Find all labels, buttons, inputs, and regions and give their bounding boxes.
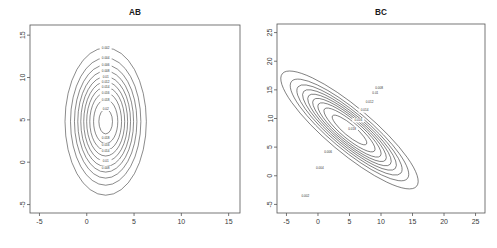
contour-label: 0.018 [102,136,110,140]
y-tick-label: 10 [20,74,27,82]
x-tick-label: -5 [283,218,289,225]
contour-plot-bc: BC-50510152025-505101520250.0020.0040.00… [249,0,497,248]
x-axis: -5051015 [36,213,232,225]
contour-label: 0.004 [316,166,324,170]
figure-root: AB-5051015-50510150.0020.0040.0060.0080.… [0,0,497,248]
y-tick-label: 15 [20,31,27,39]
contour-label: 0.014 [102,85,110,89]
x-tick-label: 15 [225,218,233,225]
contour-label: 0.01 [103,75,109,79]
x-tick-label: 5 [348,218,352,225]
contour-label: 0.02 [103,107,109,111]
plot-frame [30,25,240,213]
y-tick-label: 10 [267,115,274,123]
contour-label: 0.008 [102,166,110,170]
contour-label: 0.002 [102,46,110,50]
contour-label: 0.008 [102,69,110,73]
y-tick-label: 0 [267,174,274,178]
y-tick-label: 0 [20,160,27,164]
contour-label: 0.018 [102,98,110,102]
y-tick-label: 15 [267,86,274,94]
x-tick-label: 25 [472,218,480,225]
contour-panel-ab: AB-5051015-50510150.0020.0040.0060.0080.… [0,0,249,248]
contour-label: 0.01 [103,159,109,163]
x-tick-label: 0 [316,218,320,225]
contour-label: 0.016 [102,143,110,147]
contour-label: 0.004 [102,56,110,60]
contour-label: 0.008 [375,86,383,90]
y-tick-label: 25 [267,29,274,37]
contour-label: 0.016 [354,118,362,122]
contour-label: 0.014 [102,149,110,153]
x-axis: -50510152025 [283,213,479,225]
panel-title: BC [375,8,387,17]
contour-ring [99,109,113,134]
y-tick-label: -5 [20,201,27,207]
contour-panel-bc: BC-50510152025-505101520250.0020.0040.00… [249,0,497,248]
contour-label: 0.016 [102,91,110,95]
y-axis: -5051015 [20,31,31,207]
contour-label: 0.002 [301,194,309,198]
contour-label: 0.012 [102,80,110,84]
contour-label: 0.012 [366,100,374,104]
contour-label: 0.01 [372,91,378,95]
x-tick-label: 5 [132,218,136,225]
panel-title: AB [129,8,141,17]
y-tick-label: 5 [20,118,27,122]
contour-label: 0.006 [102,63,110,67]
x-tick-label: 0 [85,218,89,225]
x-tick-label: 15 [409,218,417,225]
y-axis: -50510152025 [267,29,278,208]
x-tick-label: 20 [440,218,448,225]
contour-label: 0.006 [324,150,332,154]
x-tick-label: -5 [36,218,42,225]
y-tick-label: 5 [267,145,274,149]
contour-label: 0.014 [361,108,369,112]
y-tick-label: -5 [267,201,274,207]
x-tick-label: 10 [177,218,185,225]
y-tick-label: 20 [267,57,274,65]
contour-label: 0.018 [348,127,356,131]
x-tick-label: 10 [377,218,385,225]
plot-frame [277,24,485,213]
contour-plot-ab: AB-5051015-50510150.0020.0040.0060.0080.… [0,0,249,248]
contour-labels: 0.0020.0040.0060.0080.010.0120.0140.0160… [100,46,112,171]
